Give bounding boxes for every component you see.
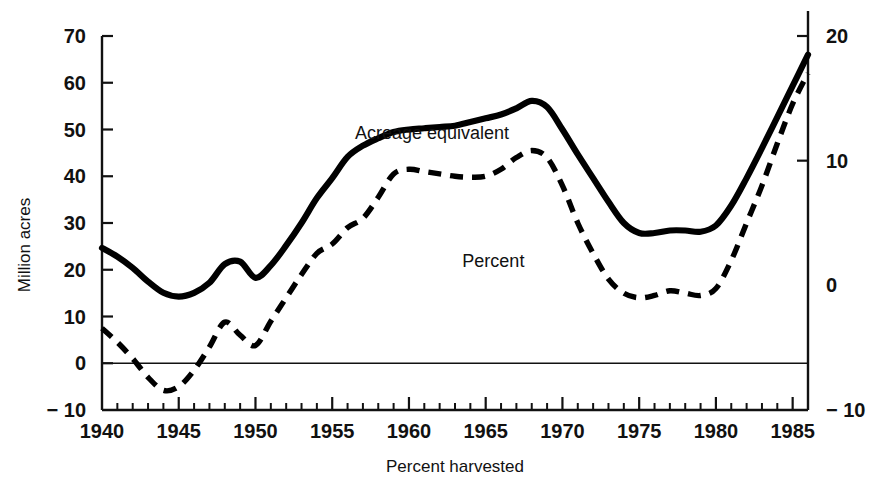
chart-ticks <box>102 36 808 410</box>
chart-series-lines <box>102 55 808 391</box>
right-axis-tick-label: 10 <box>826 150 848 172</box>
y-axis-tick-label: 0 <box>75 352 86 374</box>
x-axis-title: Percent harvested <box>386 457 524 476</box>
x-axis-tick-label: 1975 <box>617 420 662 442</box>
series-label-percent: Percent <box>462 251 524 271</box>
right-axis-tick-label: − 10 <box>826 399 865 421</box>
y-axis-tick-label: 30 <box>64 212 86 234</box>
y-axis-tick-label: 10 <box>64 306 86 328</box>
x-axis-tick-label: 1980 <box>694 420 739 442</box>
x-axis-tick-label: 1940 <box>80 420 125 442</box>
line-chart-svg: − 10010203040506070− 1001020194019451950… <box>0 0 881 499</box>
y-axis-tick-label: 70 <box>64 25 86 47</box>
right-axis-tick-label: 0 <box>826 274 837 296</box>
chart-figure: − 10010203040506070− 1001020194019451950… <box>0 0 881 499</box>
x-axis-tick-label: 1970 <box>540 420 585 442</box>
x-axis-tick-label: 1985 <box>770 420 815 442</box>
x-axis-tick-label: 1960 <box>387 420 432 442</box>
y-axis-tick-label: 20 <box>64 259 86 281</box>
right-axis-tick-label: 20 <box>826 25 848 47</box>
y-axis-title-left: Million acres <box>15 198 34 292</box>
y-axis-tick-label: − 10 <box>47 399 86 421</box>
x-axis-tick-label: 1955 <box>310 420 355 442</box>
x-axis-tick-label: 1945 <box>156 420 201 442</box>
x-axis-tick-label: 1965 <box>463 420 508 442</box>
series-label-acreage-equivalent: Acreage equivalent <box>355 123 509 143</box>
y-axis-tick-label: 40 <box>64 165 86 187</box>
y-axis-tick-label: 50 <box>64 119 86 141</box>
y-axis-tick-label: 60 <box>64 72 86 94</box>
chart-axes <box>102 11 808 410</box>
x-axis-tick-label: 1950 <box>233 420 278 442</box>
